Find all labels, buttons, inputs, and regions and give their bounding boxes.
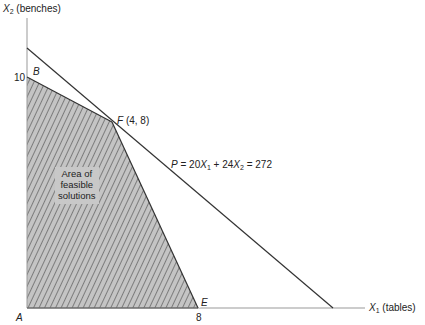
y-tick-10: 10	[14, 73, 25, 83]
profit-p: P	[171, 159, 178, 170]
y-axis-label: X2 (benches)	[3, 4, 61, 15]
point-e-label: E	[201, 298, 208, 308]
point-a-label: A	[16, 313, 23, 323]
profit-var2: X	[233, 159, 240, 170]
feasible-region	[27, 77, 198, 308]
x-tick-8: 8	[196, 313, 202, 323]
area-label-line3: solutions	[58, 191, 96, 202]
point-f-coords: (4, 8)	[126, 115, 149, 126]
profit-eq-part1: = 20	[178, 159, 201, 170]
profit-eq-part2: + 24	[211, 159, 234, 170]
point-f-letter: F	[117, 115, 123, 126]
profit-eq-part3: = 272	[244, 159, 272, 170]
profit-var1: X	[200, 159, 207, 170]
feasible-area-label: Area of feasible solutions	[55, 167, 99, 204]
x-axis-sub: 1	[376, 307, 380, 314]
profit-equation: P = 20X1 + 24X2 = 272	[171, 160, 272, 171]
x-axis-var: X	[369, 302, 376, 313]
x-axis-text: (tables)	[382, 302, 415, 313]
point-f-label: F (4, 8)	[117, 116, 149, 126]
y-axis-text: (benches)	[16, 3, 60, 14]
y-axis-var: X	[3, 3, 10, 14]
point-b-label: B	[33, 67, 40, 77]
y-axis-sub: 2	[10, 8, 14, 15]
x-axis-label: X1 (tables)	[369, 303, 416, 314]
